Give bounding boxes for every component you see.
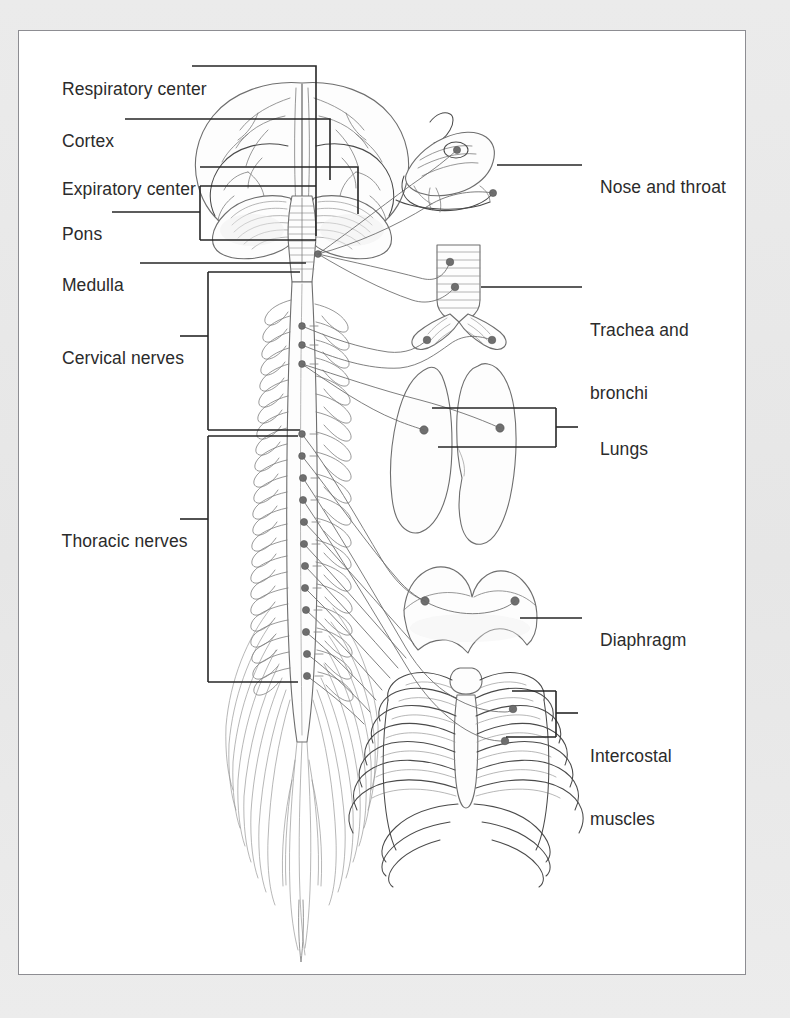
brain-illustration <box>195 83 408 282</box>
label-thoracic-nerves-text: Thoracic nerves <box>62 531 188 551</box>
left-ribs <box>349 673 458 887</box>
label-trachea-and-bronchi-line1: Trachea and <box>590 320 689 341</box>
label-diaphragm: Diaphragm <box>590 609 686 651</box>
label-pons: Pons <box>52 203 102 245</box>
label-cortex-text: Cortex <box>62 131 114 151</box>
label-pons-text: Pons <box>62 224 102 244</box>
label-trachea-and-bronchi-line2: bronchi <box>590 383 689 404</box>
label-lungs-text: Lungs <box>600 439 648 459</box>
label-cortex: Cortex <box>52 110 114 152</box>
lungs-illustration <box>391 364 516 545</box>
ribcage-illustration <box>349 668 583 887</box>
label-cervical-nerves: Cervical nerves <box>52 327 184 369</box>
label-expiratory-center-text: Expiratory center <box>62 179 196 199</box>
spinal-cord-illustration <box>226 251 378 962</box>
label-intercostal-muscles-line1: Intercostal <box>590 746 672 767</box>
left-nerve-roots <box>251 300 291 695</box>
label-thoracic-nerves: Thoracic nerves <box>52 510 188 552</box>
label-medulla: Medulla <box>52 254 124 296</box>
label-respiratory-center-text: Respiratory center <box>62 79 207 99</box>
label-diaphragm-text: Diaphragm <box>600 630 687 650</box>
trachea-bronchi-illustration <box>412 245 506 349</box>
label-lungs: Lungs <box>590 418 648 460</box>
label-cervical-nerves-text: Cervical nerves <box>62 348 184 368</box>
label-trachea-and-bronchi: Trachea and bronchi <box>590 278 689 425</box>
label-nose-and-throat-text: Nose and throat <box>600 177 726 197</box>
label-medulla-text: Medulla <box>62 275 124 295</box>
anatomy-illustration: .ink { fill:none; stroke:#4a4a4a; stroke… <box>0 0 790 1018</box>
label-expiratory-center: Expiratory center <box>52 158 196 200</box>
diaphragm-illustration <box>404 567 537 653</box>
right-ribs <box>474 673 583 887</box>
label-intercostal-muscles-line2: muscles <box>590 809 672 830</box>
label-nose-and-throat: Nose and throat <box>590 156 726 198</box>
label-respiratory-center: Respiratory center <box>52 58 207 100</box>
label-intercostal-muscles: Intercostal muscles <box>590 704 672 851</box>
